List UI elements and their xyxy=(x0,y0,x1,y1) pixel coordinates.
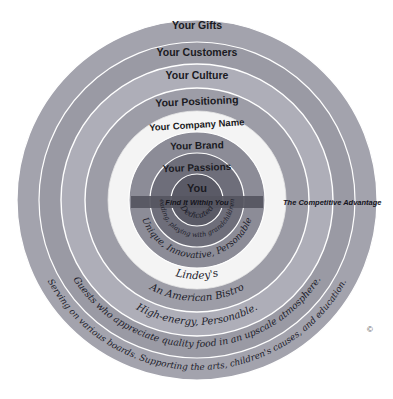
ring-label-culture: Your Culture xyxy=(166,69,229,81)
center-tagline: Find It Within You xyxy=(165,198,229,207)
ring-label-gifts: Your Gifts xyxy=(172,19,222,31)
ring-label-you: You xyxy=(187,182,207,194)
ring-label-customers: Your Customers xyxy=(157,46,238,58)
ring-label-brand: Your Brand xyxy=(170,139,224,151)
competitive-advantage-diagram: Find It Within You The Competitive Advan… xyxy=(0,0,393,399)
competitive-advantage-label: The Competitive Advantage xyxy=(283,198,382,207)
copyright-mark: © xyxy=(367,325,373,334)
